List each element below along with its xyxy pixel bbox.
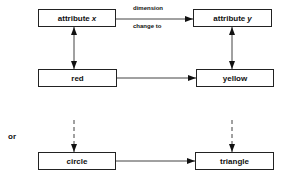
- node-attribute-y-label: attribute: [213, 14, 245, 23]
- node-attribute-y-var: y: [247, 14, 251, 23]
- node-yellow-label: yellow: [223, 74, 247, 83]
- node-attribute-y: attributey: [193, 9, 272, 27]
- edge-label-change-to: change to: [133, 23, 161, 29]
- node-attribute-x-label: attribute: [58, 14, 90, 23]
- node-red: red: [38, 69, 117, 87]
- node-triangle: triangle: [195, 152, 274, 170]
- separator-or-label: or: [8, 132, 16, 141]
- node-red-label: red: [71, 74, 83, 83]
- node-attribute-x: attributex: [38, 9, 116, 27]
- node-circle-label: circle: [67, 157, 88, 166]
- node-attribute-x-var: x: [92, 14, 96, 23]
- node-yellow: yellow: [196, 69, 274, 87]
- edge-label-dimension: dimension: [133, 5, 163, 11]
- node-circle: circle: [38, 152, 116, 170]
- node-triangle-label: triangle: [220, 157, 249, 166]
